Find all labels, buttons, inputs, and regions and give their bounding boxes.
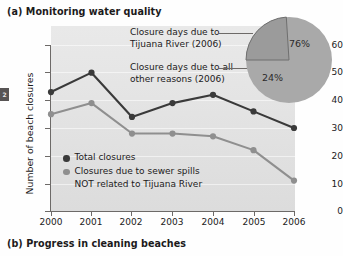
series-point	[291, 177, 297, 183]
figure-page: 2 (a) Monitoring water quality 60 50 40 …	[0, 0, 343, 256]
series-point	[210, 133, 216, 139]
legend-dot-total-closures	[63, 155, 70, 162]
series-point	[169, 100, 175, 106]
legend-dot-sewer-spills	[63, 169, 70, 176]
series-point	[210, 92, 216, 98]
legend-item-sewer-spills: Closures due to sewer spills	[63, 166, 202, 178]
chart-legend: Total closures Closures due to sewer spi…	[63, 152, 202, 191]
callout-tijuana-line1: Closure days due to	[130, 27, 222, 39]
series-point	[48, 111, 54, 117]
callout-tijuana-line2: Tijuana River (2006)	[130, 39, 222, 51]
series-point	[48, 89, 54, 95]
legend-item-total-closures: Total closures	[63, 152, 202, 164]
series-point	[291, 125, 297, 131]
series-point	[169, 130, 175, 136]
pie-chart-svg	[245, 16, 333, 104]
series-point	[250, 108, 256, 114]
series-point	[129, 130, 135, 136]
legend-label-sewer-spills: Closures due to sewer spills	[75, 166, 200, 178]
callout-other-line2: other reasons (2006)	[130, 74, 233, 86]
callout-tijuana-river: Closure days due to Tijuana River (2006)	[130, 27, 222, 50]
series-point	[88, 100, 94, 106]
pie-label-minor: 24%	[262, 72, 283, 83]
panel-b-heading: (b) Progress in cleaning beaches	[7, 238, 186, 249]
pie-label-major: 76%	[289, 38, 310, 49]
series-point	[129, 114, 135, 120]
pie-slice-minor	[246, 17, 289, 60]
series-point	[250, 147, 256, 153]
series-point	[88, 70, 94, 76]
legend-label-total-closures: Total closures	[75, 152, 136, 164]
legend-label-sewer-spills-line2: NOT related to Tijuana River	[75, 179, 203, 191]
callout-other-reasons: Closure days due to all other reasons (2…	[130, 62, 233, 85]
callout-other-line1: Closure days due to all	[130, 62, 233, 74]
pie-chart: 76% 24%	[245, 16, 333, 104]
